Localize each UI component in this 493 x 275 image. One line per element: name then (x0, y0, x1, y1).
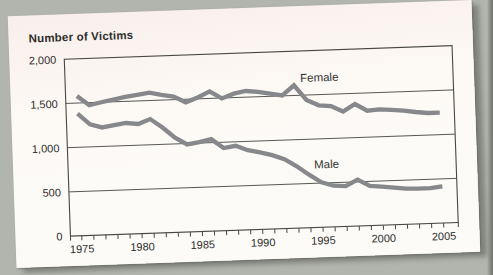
chart-card: Number of Victims 1975198019851990199520… (8, 0, 481, 268)
victims-line-chart: 197519801985199019952000200505001,0001,5… (8, 0, 481, 268)
x-tick-label-1990: 1990 (251, 236, 276, 249)
male-series-label: Male (314, 158, 339, 171)
x-tick-label-1995: 1995 (311, 234, 336, 247)
photo-edge-shadow (487, 0, 493, 275)
y-tick-label-0: 0 (56, 230, 63, 242)
y-tick-label-1500: 1,500 (30, 98, 58, 111)
x-tick-label-1980: 1980 (130, 240, 155, 253)
y-tick-label-2000: 2,000 (29, 54, 57, 67)
female-series-label: Female (300, 71, 339, 84)
y-tick-label-1000: 1,000 (32, 142, 60, 155)
x-tick-label-1975: 1975 (70, 242, 95, 255)
x-tick-label-2000: 2000 (371, 232, 396, 245)
x-tick-label-1985: 1985 (190, 238, 215, 251)
page-background: Number of Victims 1975198019851990199520… (0, 0, 493, 275)
y-tick-label-500: 500 (42, 186, 61, 199)
female-line (77, 80, 440, 125)
x-tick-label-2005: 2005 (432, 230, 457, 243)
gridline-1000 (67, 134, 455, 148)
